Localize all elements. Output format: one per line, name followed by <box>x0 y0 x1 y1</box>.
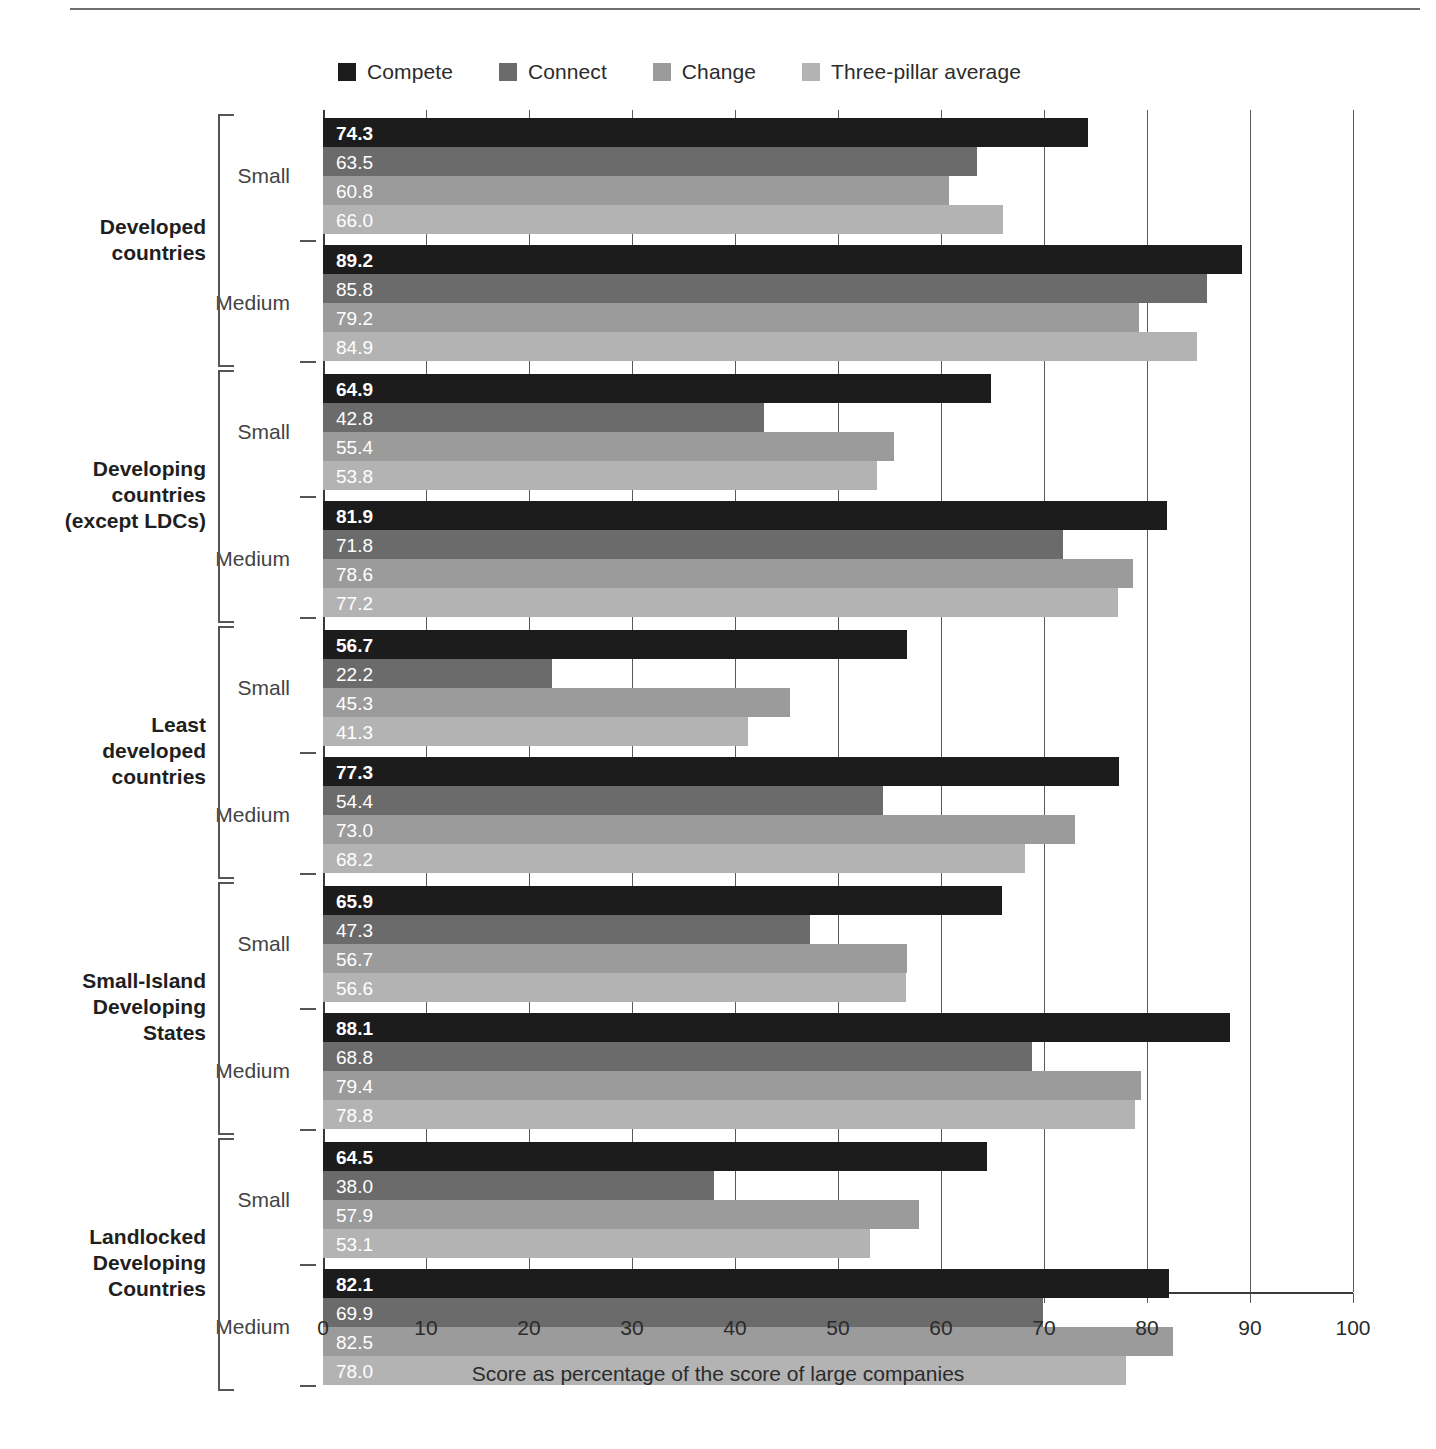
legend-item-compete[interactable]: Compete <box>338 60 453 84</box>
bar-change[interactable]: 79.2 <box>323 303 1139 332</box>
bar-change[interactable]: 56.7 <box>323 944 907 973</box>
bar-compete[interactable]: 65.9 <box>323 886 1002 915</box>
size-divider-tick <box>300 1264 316 1266</box>
legend-label: Compete <box>367 60 453 84</box>
group-bracket <box>218 114 234 367</box>
bar-row: 89.2 <box>323 245 1353 274</box>
bar-row: 45.3 <box>323 688 1353 717</box>
bar-connect[interactable]: 38.0 <box>323 1171 714 1200</box>
bar-value-label: 41.3 <box>336 722 373 741</box>
x-tick-label-10: 10 <box>414 1316 437 1340</box>
legend-swatch-icon <box>338 63 356 81</box>
bar-value-label: 38.0 <box>336 1176 373 1195</box>
legend-item-three-pillar-average[interactable]: Three-pillar average <box>802 60 1021 84</box>
bar-value-label: 79.4 <box>336 1076 373 1095</box>
size-divider-tick <box>300 240 316 242</box>
bar-change[interactable]: 57.9 <box>323 1200 919 1229</box>
legend-label: Change <box>682 60 756 84</box>
bar-change[interactable]: 60.8 <box>323 176 949 205</box>
bar-compete[interactable]: 56.7 <box>323 630 907 659</box>
x-tick-label-20: 20 <box>517 1316 540 1340</box>
bar-row: 42.8 <box>323 403 1353 432</box>
bar-change[interactable]: 45.3 <box>323 688 790 717</box>
group-label: Least developed countries <box>0 712 206 791</box>
bar-value-label: 54.4 <box>336 791 373 810</box>
bar-three-pillar-average[interactable]: 53.8 <box>323 461 877 490</box>
x-tick-100 <box>1353 1293 1354 1303</box>
bar-compete[interactable]: 74.3 <box>323 118 1088 147</box>
bar-row: 85.8 <box>323 274 1353 303</box>
bar-row: 68.8 <box>323 1042 1353 1071</box>
bar-three-pillar-average[interactable]: 78.8 <box>323 1100 1135 1129</box>
bar-row: 56.6 <box>323 973 1353 1002</box>
bar-value-label: 68.8 <box>336 1047 373 1066</box>
legend-label: Connect <box>528 60 607 84</box>
legend-item-connect[interactable]: Connect <box>499 60 607 84</box>
bar-compete[interactable]: 64.9 <box>323 374 991 403</box>
group-label: Developing countries (except LDCs) <box>0 456 206 535</box>
bar-row: 60.8 <box>323 176 1353 205</box>
size-divider-tick <box>300 361 316 363</box>
bar-value-label: 55.4 <box>336 437 373 456</box>
bar-three-pillar-average[interactable]: 68.2 <box>323 844 1025 873</box>
bar-row: 41.3 <box>323 717 1353 746</box>
bar-three-pillar-average[interactable]: 84.9 <box>323 332 1197 361</box>
bar-connect[interactable]: 42.8 <box>323 403 764 432</box>
group-label: Developed countries <box>0 213 206 266</box>
bar-value-label: 45.3 <box>336 693 373 712</box>
bar-value-label: 73.0 <box>336 820 373 839</box>
bar-compete[interactable]: 64.5 <box>323 1142 987 1171</box>
bar-change[interactable]: 78.6 <box>323 559 1133 588</box>
bar-connect[interactable]: 63.5 <box>323 147 977 176</box>
bar-three-pillar-average[interactable]: 41.3 <box>323 717 748 746</box>
bar-connect[interactable]: 85.8 <box>323 274 1207 303</box>
bar-value-label: 56.6 <box>336 978 373 997</box>
legend-swatch-icon <box>802 63 820 81</box>
bar-value-label: 82.5 <box>336 1332 373 1351</box>
bar-connect[interactable]: 47.3 <box>323 915 810 944</box>
size-divider-tick <box>300 617 316 619</box>
x-tick-label-70: 70 <box>1032 1316 1055 1340</box>
bar-value-label: 53.8 <box>336 466 373 485</box>
bar-compete[interactable]: 81.9 <box>323 501 1167 530</box>
legend-swatch-icon <box>499 63 517 81</box>
bar-row: 65.9 <box>323 886 1353 915</box>
group-label: Small-Island Developing States <box>0 968 206 1047</box>
bar-compete[interactable]: 77.3 <box>323 757 1119 786</box>
bar-connect[interactable]: 68.8 <box>323 1042 1032 1071</box>
bar-connect[interactable]: 54.4 <box>323 786 883 815</box>
legend-swatch-icon <box>653 63 671 81</box>
bar-change[interactable]: 55.4 <box>323 432 894 461</box>
bar-compete[interactable]: 89.2 <box>323 245 1242 274</box>
bar-three-pillar-average[interactable]: 56.6 <box>323 973 906 1002</box>
bar-row: 82.1 <box>323 1269 1353 1298</box>
top-divider-rule <box>70 8 1420 10</box>
bar-compete[interactable]: 88.1 <box>323 1013 1230 1042</box>
bar-value-label: 74.3 <box>336 123 373 142</box>
legend-label: Three-pillar average <box>831 60 1021 84</box>
legend-item-change[interactable]: Change <box>653 60 756 84</box>
x-tick-label-0: 0 <box>317 1316 329 1340</box>
bar-change[interactable]: 79.4 <box>323 1071 1141 1100</box>
x-tick-label-40: 40 <box>723 1316 746 1340</box>
x-tick-label-90: 90 <box>1238 1316 1261 1340</box>
x-tick-label-80: 80 <box>1135 1316 1158 1340</box>
plot-area: 74.363.560.866.089.285.879.284.964.942.8… <box>323 110 1353 1292</box>
bar-compete[interactable]: 82.1 <box>323 1269 1169 1298</box>
x-tick-label-60: 60 <box>929 1316 952 1340</box>
x-tick-label-100: 100 <box>1335 1316 1370 1340</box>
bar-row: 79.2 <box>323 303 1353 332</box>
bar-row: 88.1 <box>323 1013 1353 1042</box>
bar-value-label: 53.1 <box>336 1234 373 1253</box>
bar-three-pillar-average[interactable]: 66.0 <box>323 205 1003 234</box>
bar-row: 68.2 <box>323 844 1353 873</box>
bar-connect[interactable]: 22.2 <box>323 659 552 688</box>
bar-row: 57.9 <box>323 1200 1353 1229</box>
bar-three-pillar-average[interactable]: 53.1 <box>323 1229 870 1258</box>
bar-value-label: 56.7 <box>336 949 373 968</box>
bar-change[interactable]: 73.0 <box>323 815 1075 844</box>
bar-row: 63.5 <box>323 147 1353 176</box>
bar-connect[interactable]: 71.8 <box>323 530 1063 559</box>
bar-three-pillar-average[interactable]: 77.2 <box>323 588 1118 617</box>
gridline-100 <box>1353 110 1354 1292</box>
